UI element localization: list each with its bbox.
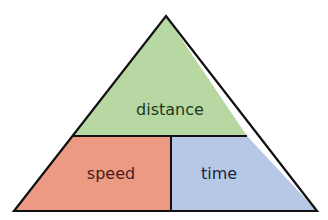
distance-label: distance	[136, 100, 204, 119]
time-region	[171, 136, 317, 211]
time-label: time	[201, 164, 237, 183]
speed-label: speed	[87, 164, 135, 183]
formula-triangle-diagram: distance speed time	[0, 0, 328, 220]
